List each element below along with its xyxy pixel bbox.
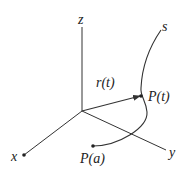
point-p-a-label: P(a) bbox=[79, 151, 105, 167]
y-axis bbox=[82, 111, 166, 150]
x-axis-endpoint bbox=[22, 153, 26, 157]
point-p-a bbox=[91, 144, 95, 148]
x-axis-label: x bbox=[10, 149, 18, 164]
position-vector bbox=[82, 96, 140, 111]
y-axis-label: y bbox=[167, 145, 176, 160]
position-vector-label: r(t) bbox=[96, 75, 115, 91]
point-p-t-label: P(t) bbox=[147, 89, 170, 105]
space-curve-diagram: z x y r(t) P(t) P(a) s bbox=[0, 0, 192, 177]
curve-end-label: s bbox=[162, 19, 168, 34]
z-axis-label: z bbox=[77, 12, 84, 27]
point-p-t bbox=[139, 94, 143, 98]
x-axis bbox=[24, 111, 82, 155]
